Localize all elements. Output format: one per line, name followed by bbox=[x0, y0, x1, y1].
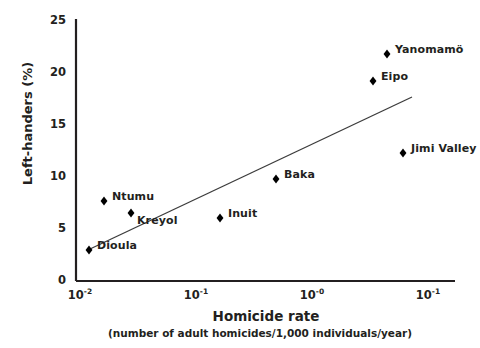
data-point-marker bbox=[128, 209, 135, 218]
data-point-marker bbox=[86, 246, 93, 255]
y-tick-label: 5 bbox=[34, 221, 66, 235]
y-tick-label: 0 bbox=[34, 273, 66, 287]
x-tick-label: 10-2 bbox=[50, 288, 110, 302]
data-point-label: Dioula bbox=[97, 239, 137, 252]
data-point-marker bbox=[370, 77, 377, 86]
data-point-marker bbox=[101, 197, 108, 206]
data-point-label: Eipo bbox=[381, 70, 408, 83]
y-axis-title: Left-handers (%) bbox=[20, 49, 35, 199]
data-markers bbox=[86, 50, 407, 255]
data-point-label: Jimi Valley bbox=[411, 142, 477, 155]
data-point-label: Ntumu bbox=[112, 190, 154, 203]
x-tick-label: 10-1 bbox=[166, 288, 226, 302]
data-point-label: Inuit bbox=[228, 207, 257, 220]
data-point-marker bbox=[273, 175, 280, 184]
y-tick-label: 20 bbox=[34, 65, 66, 79]
x-axis-subtitle: (number of adult homicides/1,000 individ… bbox=[60, 327, 460, 339]
data-point-label: Baka bbox=[284, 168, 315, 181]
data-point-marker bbox=[384, 50, 391, 59]
y-tick-label: 10 bbox=[34, 169, 66, 183]
scatter-plot-figure: 0510152025 10-210-110-010-1 DioulaNtumuK… bbox=[0, 0, 480, 348]
y-tick-label: 25 bbox=[34, 13, 66, 27]
data-point-label: Kreyol bbox=[137, 214, 178, 227]
data-point-label: Yanomamö bbox=[395, 43, 463, 56]
data-point-marker bbox=[400, 149, 407, 158]
x-tick-label: 10-0 bbox=[282, 288, 342, 302]
y-tick-label: 15 bbox=[34, 117, 66, 131]
x-axis-title: Homicide rate bbox=[76, 308, 456, 324]
data-point-marker bbox=[217, 214, 224, 223]
x-tick-label: 10-1 bbox=[398, 288, 458, 302]
